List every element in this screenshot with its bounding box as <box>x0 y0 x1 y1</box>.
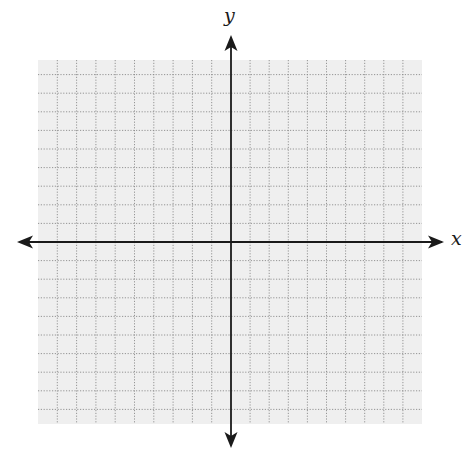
x-axis-label: x <box>451 229 462 248</box>
y-axis-label: y <box>224 6 235 25</box>
coordinate-plane-graphic <box>0 0 467 460</box>
coordinate-plane: y x <box>0 0 467 460</box>
